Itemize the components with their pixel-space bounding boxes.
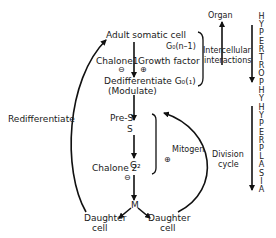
label-mitogen: Mitogen bbox=[172, 145, 204, 155]
inhibitor-sign-1: ⊖ bbox=[118, 65, 125, 75]
promoter-sign-2: ⊕ bbox=[164, 155, 171, 165]
label-interactions: interactions bbox=[204, 56, 251, 66]
label-pre-s: Pre-S bbox=[110, 113, 133, 123]
label-dedifferentiate: Dedifferentiate G₀(₁) bbox=[104, 76, 196, 86]
label-daughter-right: Daughter bbox=[148, 213, 190, 223]
label-g0-n-1: G₀(n–1) bbox=[166, 42, 196, 52]
label-daughter-left: Daughter bbox=[84, 213, 126, 223]
label-chalone2: Chalone 2 bbox=[92, 163, 137, 173]
label-hypertrophy: H Y P E R T R O P H Y bbox=[257, 13, 266, 103]
label-intercellular: Intercellular bbox=[203, 46, 251, 56]
label-adult-somatic-cell: Adult somatic cell bbox=[106, 30, 186, 40]
label-hyperplasia: H Y P E R P L A S I A bbox=[257, 104, 266, 194]
label-cycle: cycle bbox=[218, 160, 239, 170]
promoter-sign-1: ⊕ bbox=[140, 65, 147, 75]
label-division: Division bbox=[212, 150, 244, 160]
label-organ: Organ bbox=[208, 11, 233, 21]
label-cell-left: cell bbox=[92, 223, 108, 233]
label-s: S bbox=[127, 124, 133, 134]
bracket-s-g2 bbox=[152, 114, 156, 174]
label-redifferentiate: Redifferentiate bbox=[8, 114, 75, 124]
label-cell-right: cell bbox=[160, 223, 176, 233]
label-m: M bbox=[131, 200, 139, 210]
label-modulate: (Modulate) bbox=[108, 86, 157, 96]
label-growth-factor: Growth factor bbox=[138, 56, 200, 66]
inhibitor-sign-2: ⊖ bbox=[124, 173, 131, 183]
